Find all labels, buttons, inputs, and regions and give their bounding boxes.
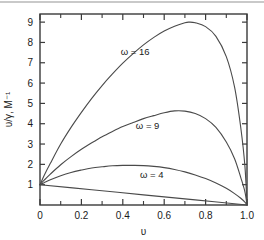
y-axis-title: υ/γ, M⁻¹ (3, 91, 14, 127)
x-axis-tick-label: 0 (37, 210, 43, 221)
chart-plot: 12345678900.20.40.60.81.0ω = 16ω = 9ω = … (0, 0, 264, 240)
y-axis-tick-label: 5 (27, 98, 33, 109)
x-axis-tick-label: 0.4 (116, 210, 130, 221)
y-axis-tick-label: 6 (27, 78, 33, 89)
figure-container: 12345678900.20.40.60.81.0ω = 16ω = 9ω = … (0, 0, 264, 240)
top-rule-divider (0, 1, 264, 3)
series-label: ω = 4 (140, 169, 164, 180)
x-axis-tick-label: 1.0 (240, 210, 254, 221)
x-axis-title: υ (141, 226, 146, 237)
y-axis-tick-label: 3 (27, 139, 33, 150)
y-axis-tick-label: 1 (27, 179, 33, 190)
y-axis-tick-label: 8 (27, 37, 33, 48)
x-axis-tick-label: 0.8 (199, 210, 213, 221)
y-axis-tick-label: 4 (27, 118, 33, 129)
y-axis-tick-label: 7 (27, 57, 33, 68)
x-axis-tick-label: 0.2 (74, 210, 88, 221)
x-axis-tick-label: 0.6 (157, 210, 171, 221)
y-axis-tick-label: 2 (27, 159, 33, 170)
series-label: ω = 9 (136, 120, 160, 131)
y-axis-tick-label: 9 (27, 17, 33, 28)
series-label: ω = 16 (121, 46, 150, 57)
